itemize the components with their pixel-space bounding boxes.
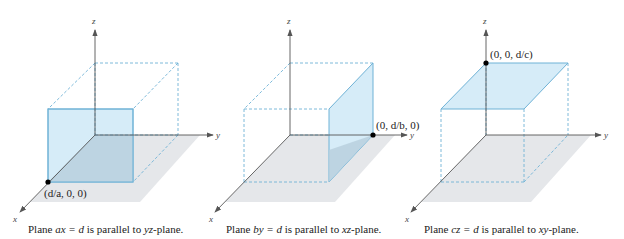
- intercept-label: (0, 0, d/c): [490, 48, 533, 61]
- diagram-canvas: z y x (d/a, 0, 0) z y x (0, d/b, 0): [0, 0, 624, 239]
- caption-prefix: Plane: [424, 223, 451, 235]
- z-axis-label: z: [91, 16, 96, 26]
- panel-by-plane: z y x (0, d/b, 0): [208, 16, 420, 224]
- y-axis-label: y: [603, 130, 608, 140]
- caption-plane: xy: [539, 223, 549, 235]
- intercept-point: [45, 179, 50, 184]
- caption-middle: is parallel to: [479, 223, 539, 235]
- caption-plane: xz: [342, 223, 351, 235]
- y-axis-label: y: [215, 130, 220, 140]
- caption-ax-plane: Plane ax = d is parallel to yz-plane.: [28, 223, 183, 235]
- caption-equation: ax = d: [55, 223, 84, 235]
- xy-floor: [421, 135, 591, 202]
- y-axis-label: y: [409, 130, 414, 140]
- caption-prefix: Plane: [28, 223, 55, 235]
- z-axis-label: z: [482, 16, 487, 26]
- caption-plane: yz: [144, 223, 153, 235]
- intercept-point: [483, 60, 488, 65]
- caption-middle: is parallel to: [84, 223, 144, 235]
- panel-cz-plane: z y x (0, 0, d/c): [404, 16, 608, 224]
- caption-suffix: -plane.: [548, 223, 578, 235]
- caption-equation: cz = d: [451, 223, 479, 235]
- plane-cz-eq-d: [441, 63, 568, 109]
- caption-prefix: Plane: [226, 223, 253, 235]
- panel-ax-plane: z y x (d/a, 0, 0): [12, 16, 220, 224]
- z-axis-label: z: [286, 16, 291, 26]
- caption-by-plane: Plane by = d is parallel to xz-plane.: [226, 223, 381, 235]
- intercept-point: [370, 132, 375, 137]
- x-axis-label: x: [12, 214, 17, 224]
- intercept-label: (d/a, 0, 0): [44, 187, 87, 200]
- caption-equation: by = d: [253, 223, 282, 235]
- caption-suffix: -plane.: [153, 223, 183, 235]
- caption-cz-plane: Plane cz = d is parallel to xy-plane.: [424, 223, 579, 235]
- xy-floor: [225, 135, 395, 202]
- x-axis-label: x: [208, 214, 213, 224]
- intercept-label: (0, d/b, 0): [376, 119, 420, 132]
- x-axis-label: x: [404, 214, 409, 224]
- caption-middle: is parallel to: [282, 223, 342, 235]
- caption-suffix: -plane.: [351, 223, 381, 235]
